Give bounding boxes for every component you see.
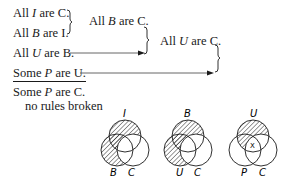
venn-diagrams: I B C B U C U P C X bbox=[0, 0, 289, 178]
venn-3-x-mark: X bbox=[250, 142, 255, 150]
venn-2-label-left: U bbox=[176, 167, 184, 178]
venn-1-label-right: C bbox=[128, 167, 135, 178]
venn-3-label-top: U bbox=[250, 108, 258, 119]
venn-diagram-2: B U C bbox=[164, 108, 212, 178]
venn-1-label-left: B bbox=[110, 167, 117, 178]
venn-diagram-1: I B C bbox=[101, 108, 149, 178]
venn-2-label-top: B bbox=[184, 108, 191, 119]
venn-3-label-left: P bbox=[241, 167, 248, 178]
venn-diagram-3: U P C X bbox=[229, 108, 277, 178]
venn-3-label-right: C bbox=[259, 167, 266, 178]
venn-2-label-right: C bbox=[194, 167, 201, 178]
venn-1-label-top: I bbox=[123, 108, 126, 119]
